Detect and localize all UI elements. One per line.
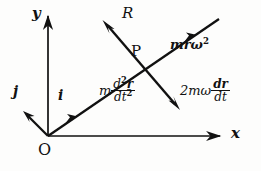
reaction-force-label: R xyxy=(122,6,133,21)
unit-vector-i-label: i xyxy=(58,88,63,102)
x-axis-label: x xyxy=(231,126,240,141)
coriolis-force-numerator: dr xyxy=(211,78,230,90)
inertial-force-label: m d2r dt2 xyxy=(99,79,135,104)
centrifugal-force-label: mrω2 xyxy=(170,38,209,51)
inertial-denominator-exponent: 2 xyxy=(127,88,133,98)
centrifugal-force-exponent: 2 xyxy=(203,36,209,46)
coriolis-force-fraction: dr dt xyxy=(211,78,230,103)
origin-label: O xyxy=(38,142,51,158)
i-unit-vector-arrowhead xyxy=(65,114,77,124)
j-unit-vector-line xyxy=(27,115,48,136)
inertial-force-mass: m xyxy=(99,83,111,98)
inertial-force-denominator: dt2 xyxy=(111,91,135,103)
unit-vector-j-label: j xyxy=(13,84,18,98)
inertial-denominator-dt: dt xyxy=(114,90,127,104)
particle-label-p: P xyxy=(131,44,141,59)
inertial-force-fraction: d2r dt2 xyxy=(111,78,135,103)
vector-force-diagram: y x O P R j i mrω2 m d2r dt2 2mω dr dt xyxy=(0,0,261,171)
coriolis-force-denominator: dt xyxy=(211,91,230,103)
coriolis-force-label: 2mω dr dt xyxy=(180,79,230,104)
coriolis-force-coefficient: 2mω xyxy=(180,83,211,98)
centrifugal-force-base: mrω xyxy=(170,37,203,52)
j-unit-vector xyxy=(23,111,48,136)
y-axis-label: y xyxy=(32,6,41,21)
inertial-numerator-d: d xyxy=(113,77,121,91)
